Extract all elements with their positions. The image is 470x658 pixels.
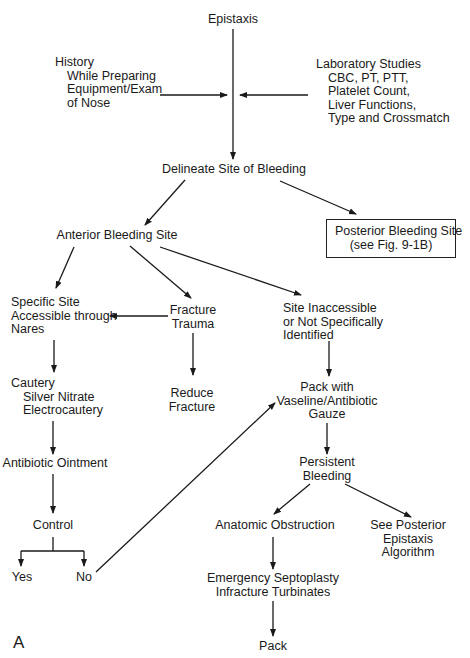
node-text-line: Reduce [169,387,216,401]
node-emergency-septoplasty: Emergency SeptoplastyInfracture Turbinat… [207,572,339,599]
node-text-line: (see Fig. 9-1B) [335,239,447,253]
node-anterior-bleeding-site: Anterior Bleeding Site [57,229,178,243]
node-text-line: While Preparing [55,70,162,84]
node-posterior-bleeding-site: Posterior Bleeding Site(see Fig. 9-1B) [326,219,456,258]
node-reduce-fracture: ReduceFracture [169,387,216,414]
node-see-posterior-algorithm: See PosteriorEpistaxisAlgorithm [370,519,446,560]
node-anatomic-obstruction: Anatomic Obstruction [215,519,335,533]
node-text-line: History [55,56,162,70]
node-pack: Pack [259,640,287,654]
node-delineate-site: Delineate Site of Bleeding [162,163,306,177]
edge-delineate-posterior [280,181,356,214]
node-text-line: See Posterior [370,519,446,533]
node-text-line: Cautery [11,377,103,391]
node-text-line: Emergency Septoplasty [207,572,339,586]
node-text-line: Laboratory Studies [316,58,450,72]
node-yes: Yes [12,571,32,585]
node-text-line: Epistaxis [208,13,258,27]
node-text-line: Specific Site [11,296,117,310]
node-text-line: Vaseline/Antibiotic [276,395,377,409]
node-text-line: Epistaxis [370,533,446,547]
node-text-line: Platelet Count, [316,85,450,99]
node-text-line: Yes [12,571,32,585]
node-text-line: Fracture [169,401,216,415]
node-text-line: Accessible through [11,310,117,324]
node-text-line: Equipment/Exam [55,83,162,97]
node-text-line: Posterior Bleeding Site [335,225,447,239]
node-text-line: Antibiotic Ointment [3,457,108,471]
node-text-line: Algorithm [370,546,446,560]
edge-delineate-anterior [145,180,185,225]
node-no: No [76,571,92,585]
node-text-line: Control [33,519,73,533]
node-text-line: Fracture [170,304,217,318]
node-text-line: Identified [283,329,383,343]
node-text-line: Site Inaccessible [283,302,383,316]
node-history: HistoryWhile PreparingEquipment/Examof N… [55,56,162,110]
node-text-line: No [76,571,92,585]
edge-persistent-see-posterior [345,484,411,517]
node-text-line: Gauze [276,408,377,422]
node-text-line: Anterior Bleeding Site [57,229,178,243]
node-text-line: Nares [11,323,117,337]
node-cautery: CauterySilver NitrateElectrocautery [11,377,103,418]
node-text-line: Infracture Turbinates [207,586,339,600]
panel-label: A [13,633,24,653]
node-specific-site: Specific SiteAccessible throughNares [11,296,117,337]
edge-anterior-inaccessible [160,247,301,295]
node-text-line: CBC, PT, PTT, [316,72,450,86]
node-pack-vaseline: Pack withVaseline/AntibioticGauze [276,381,377,422]
node-epistaxis: Epistaxis [208,13,258,27]
node-text-line: Liver Functions, [316,99,450,113]
node-text-line: Pack with [276,381,377,395]
node-text-line: Type and Crossmatch [316,112,450,126]
edge-no-pack [96,403,275,572]
node-site-inaccessible: Site Inaccessibleor Not SpecificallyIden… [283,302,383,343]
node-text-line: or Not Specifically [283,316,383,330]
node-text-line: Pack [259,640,287,654]
node-lab-studies: Laboratory StudiesCBC, PT, PTT,Platelet … [316,58,450,126]
node-control: Control [33,519,73,533]
node-text-line: Silver Nitrate [11,391,103,405]
node-text-line: Trauma [170,318,217,332]
node-antibiotic-ointment: Antibiotic Ointment [3,457,108,471]
node-text-line: Delineate Site of Bleeding [162,163,306,177]
node-fracture-trauma: FractureTrauma [170,304,217,331]
edge-anterior-specific [56,247,74,288]
node-text-line: Anatomic Obstruction [215,519,335,533]
node-persistent-bleeding: PersistentBleeding [299,456,355,483]
node-text-line: of Nose [55,97,162,111]
node-text-line: Persistent [299,456,355,470]
node-text-line: Bleeding [299,470,355,484]
edge-persistent-anatomic [274,484,310,514]
node-text-line: Electrocautery [11,404,103,418]
